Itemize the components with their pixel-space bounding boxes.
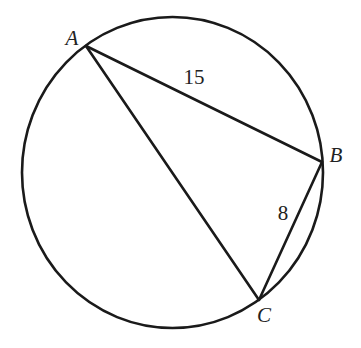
vertex-label-c: C [257, 305, 271, 326]
length-label-ab: 15 [184, 67, 205, 88]
length-label-bc: 8 [278, 203, 289, 224]
segment-ab [86, 46, 322, 162]
circle-triangle-diagram [0, 0, 361, 348]
segment-ac [86, 46, 259, 300]
vertex-label-b: B [330, 145, 343, 166]
vertex-label-a: A [66, 28, 79, 49]
